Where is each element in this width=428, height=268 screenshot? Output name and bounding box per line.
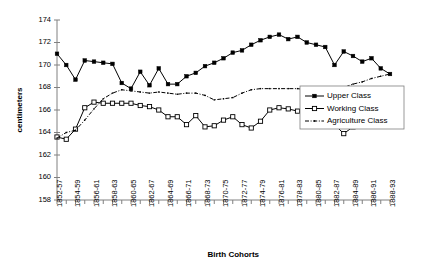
y-axis-tick-label: 174 xyxy=(38,15,51,24)
data-point xyxy=(166,115,170,119)
data-point xyxy=(203,64,207,68)
data-point xyxy=(112,92,113,93)
y-axis-tick-label: 166 xyxy=(38,105,51,114)
data-point xyxy=(140,91,141,92)
data-point xyxy=(83,59,87,63)
x-axis-tick-label: 1878-83 xyxy=(295,179,304,207)
x-axis-tick-label: 1854-59 xyxy=(73,179,82,207)
data-point xyxy=(147,105,151,109)
y-axis-tick-label: 158 xyxy=(38,195,51,204)
data-point xyxy=(295,109,299,113)
data-point xyxy=(241,92,242,93)
legend-label-1: Working Class xyxy=(327,104,378,113)
x-axis-tick-label: 1888-93 xyxy=(388,179,397,207)
y-axis-title: centimeters xyxy=(15,87,24,132)
data-point xyxy=(175,115,179,119)
data-point xyxy=(75,130,76,131)
y-axis-tick-label: 162 xyxy=(38,150,51,159)
data-point xyxy=(371,78,372,79)
data-point xyxy=(129,87,133,91)
data-point xyxy=(380,76,381,77)
data-point xyxy=(277,106,281,110)
data-point xyxy=(362,81,363,82)
data-point xyxy=(138,70,142,74)
data-point xyxy=(120,81,124,85)
data-point xyxy=(195,92,196,93)
data-point xyxy=(297,88,298,89)
data-point xyxy=(157,67,161,71)
data-point xyxy=(204,95,205,96)
data-point xyxy=(268,108,272,112)
data-point xyxy=(296,35,300,39)
data-point xyxy=(232,97,233,98)
data-point xyxy=(64,137,68,141)
data-point xyxy=(240,49,244,53)
y-axis-tick-label: 168 xyxy=(38,82,51,91)
data-point xyxy=(231,51,235,55)
x-axis-tick-label: 1862-67 xyxy=(147,179,156,207)
legend-marker-1 xyxy=(312,106,316,110)
data-point xyxy=(249,43,253,47)
x-axis-title: Birth Cohorts xyxy=(208,250,260,259)
data-point xyxy=(101,61,105,65)
data-point xyxy=(249,126,253,130)
line-chart: 1581601621641661681701721741852-571854-5… xyxy=(0,0,428,268)
data-point xyxy=(231,115,235,119)
data-point xyxy=(214,99,215,100)
y-axis-tick-label: 160 xyxy=(38,172,51,181)
data-point xyxy=(64,63,68,67)
data-point xyxy=(222,56,226,60)
x-axis-tick-label: 1874-79 xyxy=(258,179,267,207)
data-point xyxy=(223,98,224,99)
x-axis-tick-label: 1864-69 xyxy=(166,179,175,207)
data-point xyxy=(55,52,59,56)
data-point xyxy=(277,33,281,37)
data-point xyxy=(389,73,390,74)
data-point xyxy=(259,38,263,42)
data-point xyxy=(221,118,225,122)
legend-label-0: Upper Class xyxy=(327,91,371,100)
data-point xyxy=(92,60,96,64)
x-axis-tick-label: 1884-89 xyxy=(351,179,360,207)
x-axis-tick-label: 1872-77 xyxy=(240,179,249,207)
data-point xyxy=(111,62,115,66)
x-axis-tick-label: 1866-71 xyxy=(184,179,193,207)
data-point xyxy=(83,106,87,110)
data-point xyxy=(240,123,244,127)
data-point xyxy=(286,37,290,41)
data-point xyxy=(194,114,198,118)
data-point xyxy=(379,67,383,71)
data-point xyxy=(66,132,67,133)
data-point xyxy=(286,107,290,111)
series-upper-class xyxy=(55,33,392,91)
x-axis-tick-label: 1870-75 xyxy=(221,179,230,207)
data-point xyxy=(185,74,189,78)
data-point xyxy=(130,90,131,91)
data-point xyxy=(251,89,252,90)
x-axis-tick-label: 1858-63 xyxy=(110,179,119,207)
x-axis-tick-label: 1868-73 xyxy=(203,179,212,207)
data-point xyxy=(370,56,374,60)
data-point xyxy=(342,50,346,54)
data-point xyxy=(203,125,207,129)
data-point xyxy=(175,82,179,86)
data-point xyxy=(84,119,85,120)
x-axis-tick-label: 1856-61 xyxy=(92,179,101,207)
data-point xyxy=(212,61,216,65)
y-axis-tick-label: 172 xyxy=(38,37,51,46)
data-point xyxy=(129,101,133,105)
y-axis-tick-label: 164 xyxy=(38,127,51,136)
data-point xyxy=(103,98,104,99)
data-point xyxy=(342,132,346,136)
data-point xyxy=(148,83,152,87)
data-point xyxy=(260,88,261,89)
data-point xyxy=(93,108,94,109)
data-point xyxy=(184,123,188,127)
data-point xyxy=(258,119,262,123)
data-point xyxy=(56,137,57,138)
series-line xyxy=(57,35,390,89)
data-point xyxy=(167,92,168,93)
data-point xyxy=(314,43,318,47)
data-point xyxy=(92,100,96,104)
data-point xyxy=(74,78,78,82)
